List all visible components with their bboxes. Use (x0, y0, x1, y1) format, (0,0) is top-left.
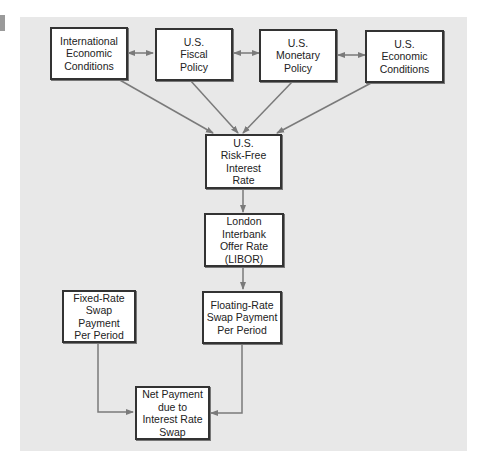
node-international-economic-conditions: International Economic Conditions (50, 27, 128, 80)
node-fixed-rate-swap-payment: Fixed-Rate Swap Payment Per Period (62, 290, 136, 343)
node-us-risk-free-interest-rate: U.S. Risk-Free Interest Rate (205, 134, 282, 189)
node-floating-rate-swap-payment: Floating-Rate Swap Payment Per Period (202, 291, 282, 344)
node-us-economic-conditions: U.S. Economic Conditions (365, 30, 444, 83)
node-libor: London Interbank Offer Rate (LIBOR) (204, 213, 284, 267)
node-us-fiscal-policy: U.S. Fiscal Policy (155, 28, 233, 81)
node-us-monetary-policy: U.S. Monetary Policy (259, 29, 337, 82)
node-net-payment-interest-rate-swap: Net Payment due to Interest Rate Swap (135, 386, 210, 440)
